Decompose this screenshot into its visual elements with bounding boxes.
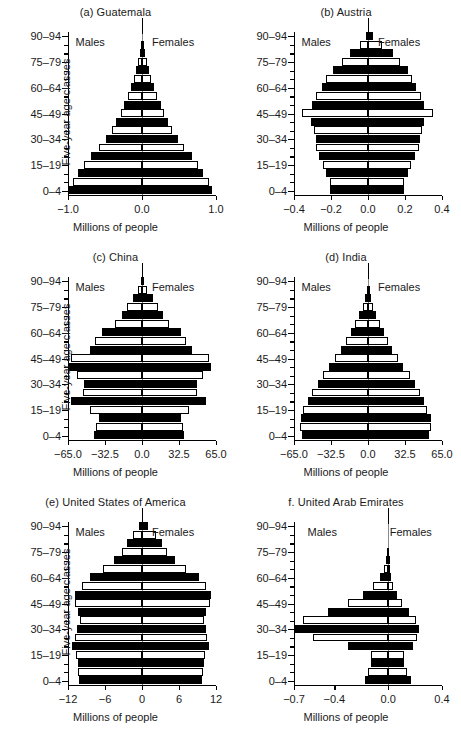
bar-male-b-13 [326, 75, 368, 83]
bar-female-b-0 [368, 186, 404, 194]
bar-female-c-10 [142, 346, 192, 354]
bar-male-a-13 [134, 75, 142, 83]
bar-male-e-2 [78, 659, 142, 667]
x-tick-a-2 [216, 196, 217, 200]
y-tick-f-11 [290, 586, 294, 587]
bar-female-d-6 [368, 380, 415, 388]
bar-male-c-14 [122, 311, 142, 319]
bar-female-f-14 [388, 556, 390, 564]
x-axis-title-d: Millions of people [231, 466, 461, 478]
y-tick-b-18 [288, 36, 294, 37]
bar-male-d-2 [301, 414, 368, 422]
bar-female-e-3 [142, 651, 205, 659]
label-females-c: Females [152, 281, 194, 293]
y-tick-label-b-12: 60–64 [256, 82, 287, 94]
x-tick-label-c-0: −65.0 [54, 448, 82, 460]
y-tick-label-c-9: 45–49 [30, 353, 61, 365]
bar-female-b-8 [368, 118, 424, 126]
bar-female-b-7 [368, 126, 422, 134]
bar-male-c-11 [95, 337, 142, 345]
bar-female-a-6 [142, 135, 178, 143]
y-tick-b-16 [290, 53, 294, 54]
bar-female-c-14 [142, 311, 163, 319]
x-tick-a-0 [68, 196, 69, 200]
x-tick-label-b-0: −0.4 [283, 203, 305, 215]
bar-female-c-11 [142, 337, 186, 345]
plot-area-c: MalesFemales0–415–1930–3445–4960–6475–79… [68, 277, 216, 440]
bar-female-b-14 [368, 66, 408, 74]
bar-female-f-5 [388, 634, 417, 642]
top-spike-e [142, 508, 143, 524]
bar-female-a-0 [142, 186, 212, 194]
x-tick-label-d-2: 0.0 [360, 448, 375, 460]
bar-female-f-7 [388, 616, 416, 624]
bar-female-a-5 [142, 144, 184, 152]
bar-male-b-8 [311, 118, 368, 126]
bar-male-e-4 [72, 642, 142, 650]
x-tick-label-b-2: 0.0 [360, 203, 375, 215]
y-tick-c-17 [64, 290, 68, 291]
bar-female-d-5 [368, 389, 420, 397]
y-tick-e-0 [62, 681, 68, 682]
bar-male-a-1 [73, 178, 142, 186]
bar-female-d-17 [368, 286, 370, 294]
x-tick-a-1 [142, 196, 143, 200]
bar-female-c-9 [142, 354, 209, 362]
x-tick-e-4 [216, 686, 217, 690]
population-pyramid-figure: (a) GuatemalaMalesFemales0–415–1930–3445… [0, 0, 461, 730]
bar-female-f-12 [388, 573, 391, 581]
bar-male-a-0 [69, 186, 142, 194]
y-tick-d-8 [290, 367, 294, 368]
bar-female-f-4 [388, 642, 413, 650]
bar-male-d-12 [351, 328, 368, 336]
bar-female-a-7 [142, 126, 172, 134]
bar-female-a-16 [142, 49, 145, 57]
y-tick-b-8 [290, 122, 294, 123]
bar-female-b-16 [368, 49, 393, 57]
y-tick-b-5 [290, 148, 294, 149]
x-tick-f-1 [334, 686, 335, 690]
bar-male-e-1 [78, 668, 142, 676]
y-tick-f-7 [290, 621, 294, 622]
x-axis-title-f: Millions of people [231, 711, 461, 723]
y-tick-f-2 [290, 664, 294, 665]
x-tick-label-f-1: −0.4 [324, 693, 346, 705]
bar-female-b-2 [368, 169, 408, 177]
bar-male-e-16 [127, 539, 142, 547]
bar-female-d-13 [368, 320, 380, 328]
x-tick-b-4 [442, 196, 443, 200]
bar-female-c-3 [142, 406, 189, 414]
bar-male-a-10 [124, 101, 142, 109]
y-tick-b-11 [290, 96, 294, 97]
y-tick-label-e-3: 15–19 [30, 649, 61, 661]
bar-male-c-5 [83, 389, 142, 397]
panel-a: (a) GuatemalaMalesFemales0–415–1930–3445… [0, 0, 231, 245]
bar-male-b-11 [316, 92, 368, 100]
bar-male-f-6 [294, 625, 388, 633]
y-tick-label-f-9: 45–49 [256, 598, 287, 610]
bar-male-f-11 [373, 582, 388, 590]
y-tick-a-0 [62, 191, 68, 192]
bar-female-d-9 [368, 354, 398, 362]
bar-female-d-7 [368, 371, 410, 379]
y-tick-a-18 [62, 36, 68, 37]
y-tick-d-0 [288, 436, 294, 437]
y-tick-b-1 [290, 182, 294, 183]
y-tick-label-a-9: 45–49 [30, 108, 61, 120]
x-tick-label-b-1: −0.2 [320, 203, 342, 215]
bar-female-e-10 [142, 591, 211, 599]
y-tick-b-17 [290, 45, 294, 46]
bar-female-b-6 [368, 135, 420, 143]
bar-female-d-0 [368, 431, 429, 439]
y-tick-f-5 [290, 638, 294, 639]
x-tick-label-d-1: −32.5 [317, 448, 345, 460]
bar-female-d-3 [368, 406, 427, 414]
y-tick-label-c-3: 15–19 [30, 404, 61, 416]
bar-female-b-11 [368, 92, 421, 100]
y-tick-a-1 [64, 182, 68, 183]
x-tick-d-4 [442, 441, 443, 445]
y-tick-f-15 [288, 552, 294, 553]
y-tick-f-1 [290, 672, 294, 673]
bar-female-c-8 [142, 363, 211, 371]
label-females-f: Females [390, 526, 432, 538]
